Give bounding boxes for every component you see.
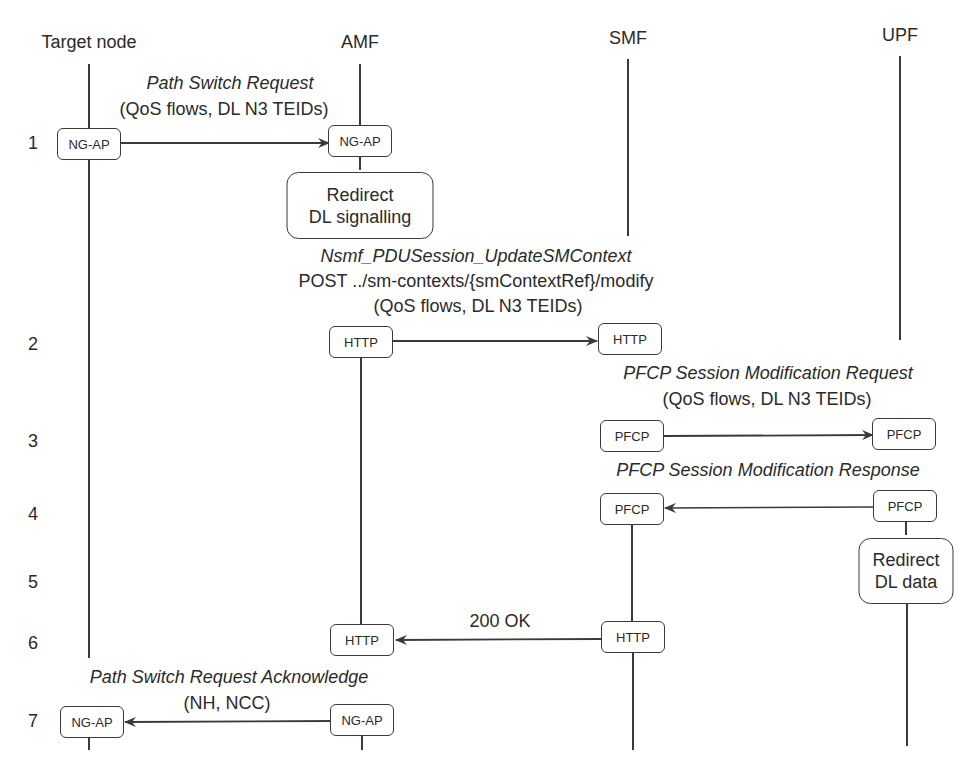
redirect-dl-data-line2: DL data	[875, 571, 937, 593]
message-title-200-ok: 200 OK	[469, 610, 530, 632]
arrow-step-7	[125, 721, 332, 722]
message-params-path-switch-ack: (NH, NCC)	[184, 692, 271, 714]
redirect-dl-data-line1: Redirect	[872, 549, 939, 571]
message-title-path-switch-ack: Path Switch Request Acknowledge	[90, 666, 369, 688]
message-title-path-switch-request: Path Switch Request	[146, 72, 313, 94]
message-title-pfcp-mod-response: PFCP Session Modification Response	[616, 459, 919, 481]
pfcp-box-smf-response: PFCP	[600, 493, 664, 525]
ngap-box-amf-ack: NG-AP	[330, 704, 394, 736]
message-title-nsmf-update: Nsmf_PDUSession_UpdateSMContext	[320, 245, 631, 267]
message-title-pfcp-mod-request: PFCP Session Modification Request	[623, 362, 912, 384]
redirect-dl-signalling-box: Redirect DL signalling	[287, 172, 434, 239]
redirect-dl-data-box: Redirect DL data	[859, 538, 954, 604]
http-box-smf-response: HTTP	[601, 621, 665, 653]
message-post-path: POST ../sm-contexts/{smContextRef}/modif…	[299, 270, 654, 292]
pfcp-box-smf: PFCP	[600, 420, 664, 452]
message-params-pfcp-mod-request: (QoS flows, DL N3 TEIDs)	[662, 388, 871, 410]
http-box-amf: HTTP	[329, 326, 393, 358]
message-params-path-switch-request: (QoS flows, DL N3 TEIDs)	[119, 98, 328, 120]
pfcp-box-upf: PFCP	[872, 418, 936, 450]
pfcp-box-upf-response: PFCP	[873, 490, 937, 522]
http-box-amf-response: HTTP	[330, 624, 394, 656]
redirect-dl-signalling-line1: Redirect	[326, 184, 393, 206]
arrow-step-6	[396, 639, 602, 640]
message-params-nsmf-update: (QoS flows, DL N3 TEIDs)	[373, 295, 582, 317]
redirect-dl-signalling-line2: DL signalling	[309, 206, 411, 228]
ngap-box-amf: NG-AP	[328, 125, 392, 157]
ngap-box-target-node: NG-AP	[57, 128, 121, 160]
arrow-step-4	[665, 507, 874, 508]
arrow-step-3	[664, 435, 873, 436]
ngap-box-target-node-ack: NG-AP	[60, 706, 124, 738]
http-box-smf: HTTP	[598, 323, 662, 355]
